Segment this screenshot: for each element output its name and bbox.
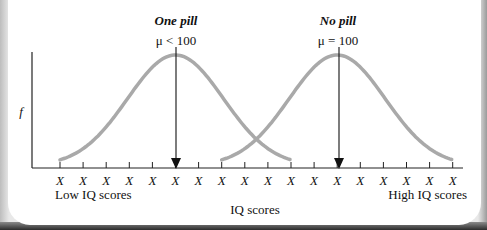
x-ticks (60, 162, 453, 168)
x-tick-label: X (171, 173, 181, 188)
x-tick-label: X (240, 173, 250, 188)
one-pill-curve (60, 55, 290, 160)
distribution-chart: XXXXXXXXXXXXXXXXXX One pill μ < 100 No p… (0, 0, 487, 230)
no-pill-mean-label: μ = 100 (318, 33, 358, 48)
x-tick-label: X (194, 173, 204, 188)
x-tick-label: X (378, 173, 388, 188)
high-iq-label: High IQ scores (388, 187, 467, 202)
no-pill-mean-arrow (334, 47, 344, 169)
x-tick-label: X (78, 173, 88, 188)
x-tick-label: X (448, 173, 458, 188)
x-axis-label: IQ scores (230, 202, 279, 217)
one-pill-label: One pill (155, 13, 198, 28)
x-tick-label: X (124, 173, 134, 188)
x-tick-label: X (101, 173, 111, 188)
no-pill-curve (222, 55, 452, 160)
x-tick-label: X (332, 173, 342, 188)
no-pill-label: No pill (319, 13, 357, 28)
x-tick-label: X (147, 173, 157, 188)
x-tick-label: X (425, 173, 435, 188)
x-tick-label: X (309, 173, 319, 188)
x-tick-label: X (286, 173, 296, 188)
x-tick-labels: XXXXXXXXXXXXXXXXXX (55, 173, 458, 188)
x-tick-label: X (402, 173, 412, 188)
one-pill-mean-arrow (171, 47, 181, 169)
x-tick-label: X (55, 173, 65, 188)
x-tick-label: X (355, 173, 365, 188)
one-pill-mean-label: μ < 100 (156, 33, 196, 48)
low-iq-label: Low IQ scores (55, 187, 132, 202)
x-tick-label: X (217, 173, 227, 188)
y-axis-label: f (19, 104, 25, 119)
x-tick-label: X (263, 173, 273, 188)
